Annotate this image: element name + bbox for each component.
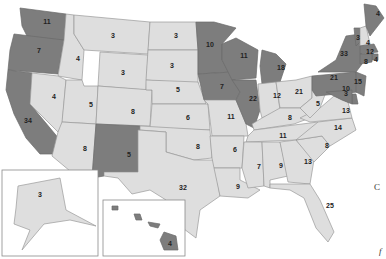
label-ms: 7 [257,163,261,170]
label-pa: 21 [330,74,338,81]
label-ks: 6 [186,114,190,121]
label-ar: 6 [233,146,237,153]
label-va: 13 [342,107,350,114]
label-ca: 34 [24,117,32,124]
label-la: 9 [236,183,240,190]
label-ct: 8 [364,58,368,65]
state-nm [92,124,140,178]
label-mt: 3 [111,32,115,39]
state-nd [148,22,198,50]
label-ny: 33 [340,50,348,57]
label-nj: 15 [354,78,362,85]
label-or: 7 [37,47,41,54]
label-tn: 11 [279,132,287,139]
label-mo: 11 [227,113,235,120]
state-or [8,34,64,74]
label-oh: 21 [295,88,303,95]
label-sc: 8 [325,142,329,149]
label-nd: 3 [174,32,178,39]
label-co: 8 [131,108,135,115]
label-hi: 4 [168,240,172,247]
label-wv: 5 [316,100,320,107]
label-mn: 10 [206,41,214,48]
edge-text-c: C [374,182,380,192]
label-al: 9 [279,162,283,169]
label-ut: 5 [89,101,93,108]
label-ne: 5 [176,86,180,93]
label-ak: 3 [38,191,42,198]
label-wy: 3 [121,69,125,76]
label-ia: 7 [220,83,224,90]
state-ks [150,104,210,130]
label-mi: 18 [277,64,285,71]
state-ar [210,136,244,168]
label-vt: 3 [356,34,360,41]
state-co [96,86,152,126]
state-de [352,94,358,104]
label-sd: 3 [170,62,174,69]
label-ok: 8 [196,143,200,150]
label-nm: 5 [127,151,131,158]
label-fl: 25 [326,202,334,209]
edge-text-f: f [379,246,382,256]
us-electoral-map: 11 7 34 4 4 3 3 5 8 8 5 3 3 5 6 8 32 10 … [0,0,386,259]
label-nh: 4 [366,39,370,46]
label-id: 4 [76,55,80,62]
label-wa: 11 [43,18,51,25]
label-ky: 8 [288,114,292,121]
label-ga: 13 [304,158,312,165]
label-wi: 11 [240,52,248,59]
label-md: 10 [342,85,350,92]
label-ri: 4 [374,56,378,63]
label-az: 8 [83,145,87,152]
label-me: 4 [376,10,380,17]
state-fl [270,184,334,242]
label-il: 22 [249,95,257,102]
label-nc: 14 [334,124,342,131]
label-ma: 12 [366,48,374,55]
label-tx: 32 [179,184,187,191]
label-in: 12 [273,92,281,99]
label-nv: 4 [52,93,56,100]
